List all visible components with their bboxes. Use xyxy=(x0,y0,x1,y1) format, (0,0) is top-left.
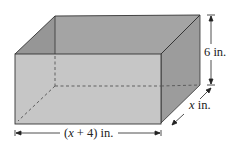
height-label: 6 in. xyxy=(204,45,226,59)
box-diagram: 6 in. x in. (x + 4) in. xyxy=(0,0,232,146)
depth-label: x in. xyxy=(188,98,211,112)
length-label: (x + 4) in. xyxy=(64,126,113,140)
front-face xyxy=(15,54,161,124)
